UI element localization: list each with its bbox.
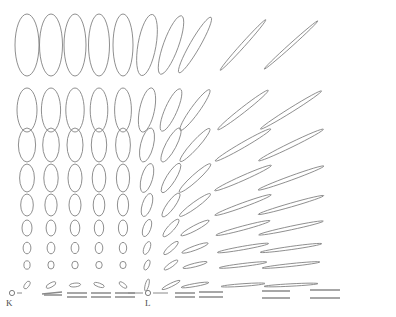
grid-ellipse [137, 162, 156, 194]
grid-ellipse [45, 194, 57, 216]
grid-ellipse [44, 164, 58, 192]
baseline-layer [42, 290, 340, 298]
grid-ellipse [177, 126, 212, 164]
grid-ellipse [139, 192, 155, 218]
grid-ellipse [24, 261, 30, 269]
grid-ellipse [69, 283, 81, 288]
grid-ellipse [161, 279, 180, 291]
grid-ellipse [43, 128, 60, 162]
grid-ellipse [41, 88, 60, 132]
grid-ellipse [90, 88, 108, 132]
grid-ellipse [64, 14, 86, 76]
grid-ellipse [23, 242, 31, 254]
ellipse-layer [15, 13, 325, 292]
grid-ellipse [143, 259, 152, 271]
grid-ellipse [175, 15, 216, 75]
grid-ellipse [182, 260, 207, 270]
grid-ellipse [69, 194, 81, 216]
grid-ellipse [92, 164, 106, 192]
grid-ellipse [70, 220, 80, 236]
grid-ellipse [118, 220, 127, 236]
grid-ellipse [45, 281, 57, 290]
grid-ellipse [144, 279, 151, 292]
grid-ellipse [46, 220, 56, 236]
grid-ellipse [159, 191, 182, 219]
grid-ellipse [93, 194, 105, 216]
ellipse-field-canvas [0, 0, 396, 317]
grid-ellipse [117, 194, 128, 216]
grid-ellipse [214, 127, 272, 164]
grid-ellipse [94, 220, 103, 236]
grid-ellipse [23, 280, 32, 290]
grid-ellipse [17, 88, 37, 132]
grid-ellipse [18, 128, 35, 162]
grid-ellipse [221, 282, 265, 288]
grid-ellipse [219, 18, 267, 71]
grid-ellipse [137, 126, 158, 163]
grid-ellipse [219, 261, 267, 270]
grid-ellipse [95, 242, 103, 253]
grid-ellipse [72, 261, 78, 269]
grid-ellipse [119, 242, 126, 253]
ellipse-field-figure: K L [0, 0, 396, 317]
grid-ellipse [96, 261, 102, 268]
grid-ellipse [22, 220, 32, 236]
grid-ellipse [264, 282, 318, 287]
grid-ellipse [180, 218, 211, 238]
baseline-segment [42, 292, 62, 294]
grid-ellipse [214, 163, 273, 193]
grid-ellipse [47, 242, 55, 254]
grid-ellipse [120, 261, 126, 268]
grid-ellipse [181, 281, 209, 289]
grid-ellipse [263, 20, 319, 71]
grid-ellipse [116, 128, 131, 162]
grid-ellipse [215, 219, 270, 237]
grid-ellipse [216, 88, 270, 131]
grid-ellipse [48, 261, 54, 269]
grid-ellipse [115, 88, 132, 132]
grid-ellipse [177, 87, 213, 132]
grid-ellipse [142, 241, 153, 256]
grid-ellipse [161, 217, 181, 238]
grid-ellipse [178, 191, 212, 218]
grid-ellipse [262, 261, 320, 270]
grid-ellipse [177, 161, 213, 194]
grid-ellipse [140, 218, 153, 238]
marker-layer [9, 290, 168, 295]
grid-ellipse [259, 89, 322, 131]
grid-ellipse [68, 164, 82, 192]
grid-ellipse [21, 194, 34, 216]
grid-ellipse [40, 14, 63, 76]
grid-ellipse [113, 14, 133, 76]
grid-ellipse [71, 242, 79, 253]
grid-ellipse [135, 86, 159, 133]
marker-dot-l [145, 290, 150, 295]
grid-ellipse [162, 240, 180, 257]
grid-ellipse [163, 259, 179, 272]
grid-ellipse [116, 164, 129, 192]
grid-ellipse [15, 14, 39, 76]
grid-ellipse [181, 241, 209, 255]
marker-label-k: K [6, 299, 13, 308]
grid-ellipse [260, 242, 322, 254]
grid-ellipse [20, 164, 35, 192]
grid-ellipse [91, 128, 106, 162]
grid-ellipse [156, 87, 186, 134]
grid-ellipse [93, 282, 104, 289]
grid-ellipse [66, 88, 84, 132]
grid-ellipse [67, 128, 83, 162]
marker-dot-k [9, 290, 14, 295]
grid-ellipse [133, 13, 161, 77]
grid-ellipse [118, 281, 128, 289]
marker-label-l: L [145, 299, 151, 308]
grid-ellipse [153, 13, 188, 76]
grid-ellipse [89, 14, 110, 76]
